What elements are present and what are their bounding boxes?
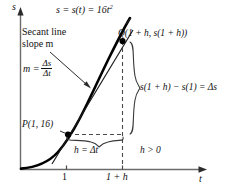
secant-line-label-line2: slope m [22,39,53,49]
h-positive-label: h > 0 [140,146,161,156]
slope-formula: m = Δs Δt [23,60,52,80]
point-p-marker [65,131,71,137]
point-q-label: Q(1 + h, s(1 + h)) [118,29,187,39]
secant-pointer-arrow [50,52,91,89]
secant-line-path [52,30,133,164]
t-axis-label: t [199,174,202,184]
slope-formula-denominator: Δt [41,68,52,78]
t-axis-arrowhead [199,166,208,172]
delta-s-label: s(1 + h) − s(1) = Δs [140,83,217,93]
tick-label-1-plus-h: 1 + h [106,172,128,182]
curve-equation-exponent: 2 [110,3,113,10]
s-axis-arrowhead [17,7,23,16]
point-p-leader [60,131,66,134]
s-axis-label: s [12,2,16,12]
secant-line-figure: s t s = s(t) = 16t2 Secant line slope m … [0,0,226,190]
point-q-marker [119,38,125,44]
delta-s-brace [130,42,140,134]
point-p-label: P(1, 16) [22,120,53,130]
tick-label-1: 1 [62,172,67,182]
slope-formula-numerator: Δs [41,59,52,68]
slope-formula-fraction: Δs Δt [41,59,52,79]
delta-t-label: h = Δt [74,146,98,156]
secant-line-group [52,30,133,164]
curve-equation-label: s = s(t) = 16t2 [56,4,113,15]
curve-equation-base: s = s(t) = 16t [56,4,110,15]
slope-formula-lhs: m = [23,63,39,74]
secant-line-label-line1: Secant line [22,27,66,37]
